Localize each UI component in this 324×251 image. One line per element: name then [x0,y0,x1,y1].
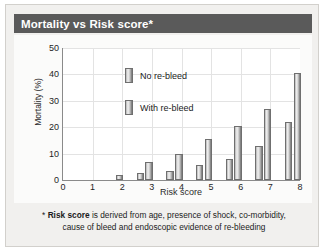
bar [116,175,124,180]
bar [175,154,183,180]
legend-item: With re-bleed [125,100,194,115]
bar [166,171,174,180]
plot-area: 01020304050 012345678 No re-bleedWith re… [62,48,300,181]
bar [137,173,145,180]
bar [285,122,293,180]
y-axis-tick-label: 50 [49,43,59,53]
legend-label: With re-bleed [140,103,194,113]
y-axis-label: Mortality (%) [33,62,43,142]
chart-title-bar: Mortality vs Risk score* [14,14,312,33]
bar [205,139,213,180]
y-axis-tick-label: 40 [49,69,59,79]
legend-swatch-icon [125,100,133,115]
bar [196,165,204,180]
chart-card: Mortality vs Risk score* Mortality (%) 0… [5,4,319,247]
footnote-line2: cause of bleed and endoscopic evidence o… [63,222,266,232]
x-axis-label: Risk score [62,187,300,197]
bar [234,126,242,180]
bar [226,159,234,180]
chart-panel: Mortality (%) 01020304050 012345678 No r… [14,35,312,203]
y-axis-tick-label: 30 [49,96,59,106]
bar [145,162,153,180]
page-title: Mortality vs Risk score* [14,18,153,30]
footnote-bold-term: Risk score [48,210,90,220]
gridline-vertical [122,48,123,180]
y-axis-tick-label: 10 [49,149,59,159]
legend-label: No re-bleed [140,71,187,81]
bar [264,109,272,180]
legend-swatch-icon [125,68,133,83]
chart-legend: No re-bleedWith re-bleed [125,68,194,132]
gridline-vertical [93,48,94,180]
footnote-marker: * [42,210,45,220]
legend-item: No re-bleed [125,68,194,83]
footnote-line1: is derived from age, presence of shock, … [90,210,286,220]
y-axis-tick-label: 20 [49,122,59,132]
footnote: * Risk score is derived from age, presen… [16,210,312,233]
bar [294,73,302,180]
bar [255,146,263,180]
y-axis-tick-label: 0 [54,175,59,185]
